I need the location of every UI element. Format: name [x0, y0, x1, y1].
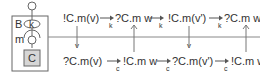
bottom-term-3: ?C.m(v') [172, 56, 213, 67]
bottom-term-4: !C.m w' [231, 56, 260, 67]
top-arrow-sub-2: k [159, 22, 163, 29]
top-term-1: !C.m(v) [63, 13, 99, 24]
right-arrow-icon [110, 16, 114, 21]
bottom-term-1: ?C.m(v) [63, 56, 102, 67]
top-term-3: !C.m(v') [168, 13, 206, 24]
inner-label-c: C [28, 53, 36, 64]
bottom-arrow-sub-1: c [116, 65, 120, 72]
connector-label-m: m [15, 34, 24, 45]
port-label-k: k [29, 19, 34, 30]
outer-label-b: B [15, 19, 22, 30]
bottom-arrow-sub-2: c [166, 65, 170, 72]
right-arrow-icon [117, 59, 121, 64]
bottom-term-2: !C.m w [123, 56, 157, 67]
ball-icon [28, 36, 36, 44]
right-arrow-icon [160, 16, 164, 21]
right-arrow-icon [167, 59, 171, 64]
top-term-4: ?C.m w' [224, 13, 260, 24]
right-arrow-icon [225, 59, 229, 64]
lollipop-port-icon [28, 2, 36, 10]
down-label-v-1: v [75, 42, 79, 49]
down-label-v-2: v [187, 42, 191, 49]
right-arrow-icon [219, 16, 223, 21]
bottom-arrow-sub-3: c [224, 65, 228, 72]
top-arrow-sub-1: k [109, 22, 113, 29]
top-term-2: ?C.m w [115, 13, 152, 24]
top-arrow-sub-3: k [218, 22, 222, 29]
